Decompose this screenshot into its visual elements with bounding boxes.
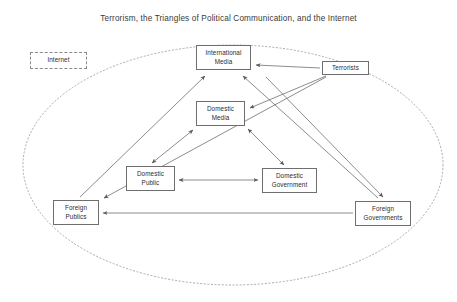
edge-terrorists-international-media — [256, 65, 320, 68]
node-internet[interactable]: Internet — [30, 52, 87, 69]
node-foreign-publics[interactable]: ForeignPublics — [53, 200, 99, 225]
node-foreign-publics-label: ForeignPublics — [63, 204, 89, 221]
node-domestic-government-label: DomesticGovernment — [270, 172, 310, 189]
node-domestic-public[interactable]: DomesticPublic — [126, 166, 175, 191]
node-terrorists-label: Terrorists — [330, 64, 361, 73]
node-domestic-government[interactable]: DomesticGovernment — [262, 168, 317, 193]
node-domestic-media-label: DomesticMedia — [205, 105, 236, 122]
node-foreign-governments-label: ForeignGovernments — [362, 205, 405, 222]
node-domestic-public-label: DomesticPublic — [135, 170, 166, 187]
diagram-canvas: Terrorism, the Triangles of Political Co… — [0, 0, 457, 302]
node-international-media[interactable]: InternationalMedia — [196, 45, 251, 70]
node-internet-label: Internet — [45, 56, 71, 65]
edge-terrorists-domestic-media — [250, 76, 326, 108]
node-foreign-governments[interactable]: ForeignGovernments — [355, 201, 411, 226]
edge-domestic-media-domestic-public — [152, 130, 193, 163]
node-international-media-label: InternationalMedia — [204, 49, 244, 66]
node-terrorists[interactable]: Terrorists — [322, 61, 369, 75]
internet-boundary-ellipse — [23, 45, 443, 285]
edge-domestic-media-domestic-government — [248, 129, 284, 165]
node-domestic-media[interactable]: DomesticMedia — [196, 101, 245, 126]
